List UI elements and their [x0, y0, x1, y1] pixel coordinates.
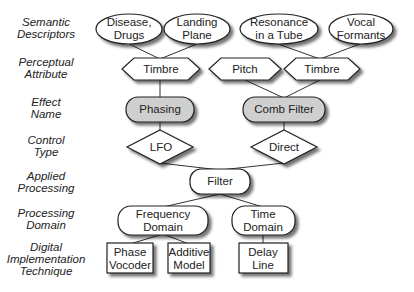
node-label: Domain	[243, 221, 283, 233]
node-timbre-right: Timbre	[284, 58, 360, 80]
node-label: Frequency	[136, 208, 191, 220]
node-label: Formants	[337, 29, 386, 41]
edge	[245, 80, 284, 98]
node-pitch: Pitch	[209, 58, 281, 80]
node-label: Timbre	[304, 63, 339, 75]
node-label: Vocal	[347, 16, 375, 28]
edge	[129, 44, 160, 59]
edge	[284, 80, 320, 98]
node-comb-filter: Comb Filter	[243, 97, 325, 122]
node-label: Comb Filter	[254, 103, 314, 115]
node-phasing: Phasing	[126, 97, 194, 122]
node-additive-model: Additive Model	[168, 243, 210, 273]
node-label: Vocoder	[109, 259, 151, 271]
node-disease-drugs: Disease, Drugs	[96, 14, 162, 44]
node-label: Timbre	[143, 63, 178, 75]
node-vocal-formants: Vocal Formants	[329, 14, 393, 44]
node-label: Model	[173, 259, 204, 271]
node-direct: Direct	[251, 130, 317, 164]
node-frequency-domain: Frequency Domain	[118, 206, 208, 235]
node-label: Domain	[143, 221, 183, 233]
node-label: Disease,	[107, 16, 152, 28]
node-label: in a Tube	[255, 29, 302, 41]
node-filter: Filter	[190, 169, 250, 194]
diagram-canvas: Disease, Drugs Landing Plane Resonance i…	[0, 0, 414, 292]
node-resonance-tube: Resonance in a Tube	[240, 14, 318, 44]
edge	[160, 44, 197, 59]
node-label: Phasing	[139, 103, 181, 115]
node-label: Time	[250, 208, 275, 220]
node-label: Delay	[248, 246, 278, 258]
node-time-domain: Time Domain	[232, 206, 295, 235]
node-label: LFO	[150, 141, 172, 153]
node-phase-vocoder: Phase Vocoder	[107, 243, 153, 273]
node-label: Plane	[182, 29, 211, 41]
node-delay-line: Delay Line	[239, 243, 288, 273]
node-label: Direct	[269, 141, 300, 153]
node-label: Resonance	[250, 16, 308, 28]
edge	[278, 44, 320, 59]
node-label: Pitch	[232, 63, 258, 75]
node-label: Line	[252, 259, 274, 271]
edge	[163, 194, 220, 207]
node-lfo: LFO	[127, 130, 193, 164]
edge	[320, 44, 360, 59]
node-label: Drugs	[114, 29, 145, 41]
node-timbre-left: Timbre	[122, 58, 200, 80]
node-label: Additive	[169, 246, 210, 258]
node-label: Landing	[177, 16, 218, 28]
node-landing-plane: Landing Plane	[164, 14, 230, 44]
node-label: Phase	[114, 246, 147, 258]
edge	[220, 194, 263, 207]
node-label: Filter	[207, 175, 233, 187]
